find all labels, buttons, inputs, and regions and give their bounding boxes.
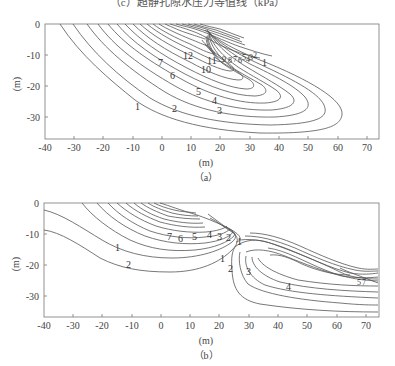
x-tick-label: 70 <box>361 320 371 331</box>
contour-label: 5 <box>192 231 197 242</box>
contour-label: 3 <box>246 266 251 277</box>
panel-a-contour-labels: 1 2 3 4 5 6 7 10 11 12 9 8 7 6 5 4 3 2 1 <box>135 50 267 116</box>
x-tick-label: -30 <box>66 320 79 331</box>
panel-b-contours <box>44 203 378 312</box>
panel-b-y-axis: 0 -10 -20 -30 (m) <box>10 198 47 302</box>
contour-label: 2 <box>253 51 257 60</box>
x-tick-label: 60 <box>332 320 342 331</box>
x-tick-label: 40 <box>274 142 284 153</box>
x-tick-label: 0 <box>159 320 164 331</box>
contour-label: 1 <box>115 242 120 253</box>
contour-label: 3 <box>217 105 222 116</box>
x-tick-label: 60 <box>333 142 343 153</box>
y-axis-label: (m) <box>11 77 23 91</box>
contour-label: 12 <box>183 50 193 61</box>
x-axis-label: (m) <box>199 157 213 169</box>
contour-label: 4 <box>286 281 291 292</box>
contour-label: 2 <box>126 259 131 270</box>
y-tick-label: -10 <box>26 229 39 240</box>
contour-label: 7 <box>158 57 163 68</box>
contour-label: 4 <box>207 229 212 240</box>
panel-caption: （b） <box>194 350 219 361</box>
y-tick-label: 0 <box>34 198 39 209</box>
x-tick-label: -10 <box>125 320 138 331</box>
x-tick-label: 20 <box>214 320 224 331</box>
x-tick-label: 30 <box>245 142 255 153</box>
contour-label: 7 <box>167 231 172 242</box>
x-tick-label: 10 <box>186 142 196 153</box>
contour-label: 11 <box>207 55 217 66</box>
contour-label: 3 <box>217 231 222 242</box>
panel-a-contours <box>60 24 342 133</box>
panel-a-y-axis: 0 -10 -20 -30 (m) <box>11 19 48 123</box>
x-tick-label: -10 <box>126 142 139 153</box>
contour-label: 8 <box>228 56 232 65</box>
x-tick-label: -30 <box>67 142 80 153</box>
contour-label: 1 <box>220 253 225 264</box>
y-tick-label: 0 <box>35 19 40 30</box>
panel-caption: （a） <box>194 172 218 183</box>
y-tick-label: -20 <box>27 81 40 92</box>
contour-label: 1 <box>262 57 267 68</box>
contour-label: 4 <box>212 95 217 106</box>
x-tick-label: 10 <box>185 320 195 331</box>
y-tick-label: -10 <box>27 50 40 61</box>
x-tick-label: 30 <box>244 320 254 331</box>
y-tick-label: -30 <box>26 291 39 302</box>
panel-a: 1 2 3 4 5 6 7 10 11 12 9 8 7 6 5 4 3 2 1… <box>11 19 379 183</box>
contour-label: 7 <box>233 55 237 64</box>
x-tick-label: -40 <box>38 142 51 153</box>
y-tick-label: -30 <box>27 112 40 123</box>
contour-label: 1 <box>135 101 140 112</box>
x-tick-label: 70 <box>362 142 372 153</box>
x-tick-label: -40 <box>37 320 50 331</box>
x-tick-label: -20 <box>95 320 108 331</box>
contour-label: 2 <box>228 263 233 274</box>
x-tick-label: 50 <box>303 142 313 153</box>
contour-label: 7 <box>362 278 366 287</box>
contour-label: 9 <box>222 55 226 64</box>
contour-label: 5 <box>357 278 361 287</box>
figure-canvas: 1 2 3 4 5 6 7 10 11 12 9 8 7 6 5 4 3 2 1… <box>0 0 395 366</box>
y-tick-label: -20 <box>26 260 39 271</box>
panel-a-x-axis: -40 -30 -20 -10 0 10 20 30 40 50 60 70 (… <box>38 136 372 183</box>
x-tick-label: 50 <box>302 320 312 331</box>
contour-label: 5 <box>196 86 201 97</box>
x-tick-label: -20 <box>96 142 109 153</box>
x-tick-label: 0 <box>160 142 165 153</box>
contour-label: 6 <box>178 233 183 244</box>
x-axis-label: (m) <box>199 335 213 347</box>
x-tick-label: 20 <box>215 142 225 153</box>
contour-label: 1 <box>237 236 242 247</box>
panel-b: 1 2 7 6 5 4 3 2 1 1 2 3 4 5 7 0 -10 -20 … <box>10 198 379 361</box>
contour-label: 2 <box>172 103 177 114</box>
panel-b-x-axis: -40 -30 -20 -10 0 10 20 30 40 50 60 70 (… <box>37 314 371 361</box>
y-axis-label: (m) <box>10 257 22 271</box>
contour-label: 2 <box>226 232 231 243</box>
contour-label: 6 <box>170 70 175 81</box>
x-tick-label: 40 <box>273 320 283 331</box>
